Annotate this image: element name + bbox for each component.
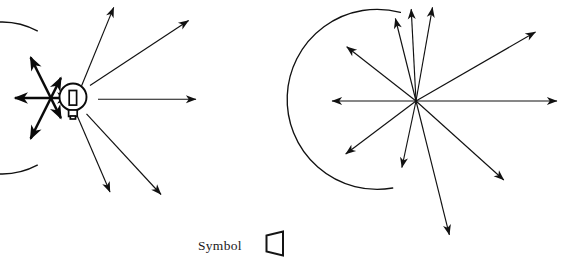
ray-vertical-up-center bbox=[411, 9, 416, 101]
light-distribution-diagram: Symbol bbox=[0, 0, 567, 267]
left-emitted-rays bbox=[78, 7, 197, 194]
lamp-trapezoid-symbol-icon bbox=[267, 232, 284, 256]
ray-down-steep-left bbox=[402, 101, 416, 168]
bulb-base-tip-icon bbox=[70, 116, 75, 119]
caption-label: Symbol bbox=[198, 238, 242, 253]
bulb-filament-icon bbox=[69, 91, 76, 106]
ray-down-right-steep bbox=[78, 117, 111, 193]
right-rays bbox=[332, 7, 557, 235]
ray-vertical-up-right bbox=[416, 7, 433, 101]
ray-down-long-center bbox=[416, 101, 449, 235]
ray-up-right-steep bbox=[82, 7, 114, 86]
figure-root: Symbol bbox=[0, 0, 567, 267]
ray-down-left-diagonal bbox=[346, 101, 416, 154]
right-diagram-group bbox=[287, 7, 557, 235]
ray-down-right-diagonal bbox=[416, 101, 504, 180]
lamp-bulb-symbol bbox=[60, 84, 87, 120]
left-diagram-group bbox=[0, 7, 196, 194]
right-reflector-arc bbox=[287, 9, 400, 189]
caption-group: Symbol bbox=[198, 232, 283, 256]
ray-up-right-diagonal bbox=[416, 32, 536, 101]
ray-up-left-diagonal bbox=[347, 47, 416, 101]
ray-down-right-shallow bbox=[87, 114, 162, 195]
